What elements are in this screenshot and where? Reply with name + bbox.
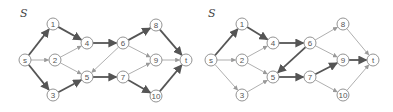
node-5: 5	[267, 71, 279, 83]
edge-2-to-5	[60, 63, 81, 74]
node-label: 6	[121, 39, 126, 48]
node-label: 9	[341, 56, 346, 65]
node-label: 9	[154, 56, 159, 65]
edge-2-to-4	[247, 46, 267, 57]
edge-3-to-5	[247, 80, 267, 92]
node-label: 5	[85, 73, 90, 82]
node-8: 8	[150, 19, 162, 31]
edge-8-to-t-bold	[160, 30, 182, 55]
node-4: 4	[81, 37, 93, 49]
node-label: 7	[121, 73, 126, 82]
node-1: 1	[47, 18, 59, 30]
graph-right: S s12345678910t	[205, 7, 379, 101]
node-label: s	[209, 56, 213, 65]
node-label: 2	[53, 56, 58, 65]
node-10: 10	[337, 89, 349, 101]
node-label: 4	[271, 39, 276, 48]
node-2: 2	[236, 54, 248, 66]
edge-6-to-8	[315, 27, 337, 40]
node-label: 2	[240, 56, 245, 65]
node-4: 4	[267, 37, 279, 49]
node-label: 7	[308, 73, 313, 82]
node-label: 1	[51, 20, 56, 29]
node-6: 6	[117, 37, 129, 49]
node-s: s	[205, 54, 217, 66]
edge-s-to-3	[215, 65, 238, 91]
node-label: 3	[51, 91, 56, 100]
node-1: 1	[236, 18, 248, 30]
node-9: 9	[337, 54, 349, 66]
edge-6-to-9	[315, 46, 337, 57]
edge-6-to-5	[92, 47, 119, 72]
node-label: 10	[152, 92, 161, 101]
edge-8-to-t	[347, 29, 369, 55]
node-7: 7	[117, 71, 129, 83]
graph-label-s: S	[20, 7, 28, 20]
graph-left: S s12345678910t	[19, 7, 192, 102]
edge-7-to-9	[128, 63, 150, 74]
edge-s-to-3-bold	[29, 65, 49, 90]
node-10: 10	[150, 90, 162, 102]
edge-6-to-9	[128, 46, 150, 57]
node-label: 5	[271, 73, 276, 82]
node-label: s	[23, 56, 27, 65]
edge-6-to-5-bold	[278, 47, 306, 73]
node-label: 8	[154, 21, 159, 30]
node-2: 2	[49, 54, 61, 66]
node-9: 9	[150, 54, 162, 66]
edge-s-to-1-bold	[215, 29, 238, 56]
node-t: t	[367, 54, 379, 66]
edge-s-to-1-bold	[29, 29, 49, 55]
node-5: 5	[81, 71, 93, 83]
node-label: 3	[240, 91, 245, 100]
edge-2-to-4	[60, 46, 81, 57]
graph-label-s: S	[208, 7, 216, 20]
node-s: s	[19, 54, 31, 66]
edge-10-to-t	[347, 65, 369, 91]
node-label: 8	[341, 20, 346, 29]
edge-6-to-8-bold	[128, 28, 150, 40]
edge-1-to-4-bold	[247, 27, 267, 39]
node-t: t	[180, 54, 192, 66]
flow-network-diagram: S s12345678910t S s12345678910t	[0, 0, 393, 112]
edge-7-to-10	[315, 80, 337, 92]
node-label: 10	[339, 91, 348, 100]
edge-7-to-9-bold	[315, 63, 337, 74]
edge-2-to-5	[247, 63, 267, 74]
node-3: 3	[47, 89, 59, 101]
node-label: 6	[308, 39, 313, 48]
node-label: 1	[240, 20, 245, 29]
node-8: 8	[337, 18, 349, 30]
edge-10-to-t-bold	[160, 65, 182, 91]
node-label: 4	[85, 39, 90, 48]
node-6: 6	[304, 37, 316, 49]
node-3: 3	[236, 89, 248, 101]
edge-7-to-10-bold	[128, 80, 150, 93]
edge-3-to-5-bold	[58, 80, 81, 92]
node-7: 7	[304, 71, 316, 83]
edge-1-to-4-bold	[58, 27, 81, 40]
